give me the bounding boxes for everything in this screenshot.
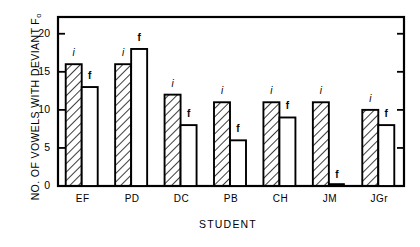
bar-label-i-PD: i	[113, 47, 133, 58]
bar-i-EF	[66, 64, 82, 186]
bar-label-f-EF: f	[80, 70, 100, 81]
bar-label-f-PD: f	[129, 32, 149, 43]
bar-label-i-JGr: i	[360, 93, 380, 104]
bar-f-DC	[181, 125, 197, 186]
plot-area	[0, 0, 420, 247]
bar-f-PB	[230, 140, 246, 186]
bar-label-f-JGr: f	[376, 108, 396, 119]
y-tick-label: 15	[24, 65, 50, 77]
bar-label-f-DC: f	[179, 108, 199, 119]
y-tick-label: 10	[24, 103, 50, 115]
bars-group	[66, 49, 395, 186]
chart-figure: NO. OF VOWELS WITH DEVIANT Fo STUDENT 05…	[0, 0, 420, 247]
bar-label-i-CH: i	[261, 85, 281, 96]
bar-label-f-PB: f	[228, 123, 248, 134]
bar-f-JGr	[378, 125, 394, 186]
bar-i-PB	[214, 102, 230, 186]
bar-label-i-EF: i	[64, 47, 84, 58]
bar-label-i-PB: i	[212, 85, 232, 96]
bar-i-CH	[263, 102, 279, 186]
bar-label-i-DC: i	[163, 78, 183, 89]
bar-label-f-JM: f	[327, 169, 347, 180]
bar-f-EF	[82, 87, 98, 186]
bar-f-PD	[131, 49, 147, 186]
bar-i-JGr	[362, 110, 378, 186]
y-tick-label: 0	[24, 179, 50, 191]
y-tick-label: 20	[24, 27, 50, 39]
y-tick-label: 5	[24, 141, 50, 153]
x-tick-label-JGr: JGr	[349, 193, 409, 204]
bar-f-CH	[279, 117, 295, 186]
bar-label-i-JM: i	[311, 85, 331, 96]
bar-label-f-CH: f	[277, 100, 297, 111]
bar-i-PD	[115, 64, 131, 186]
